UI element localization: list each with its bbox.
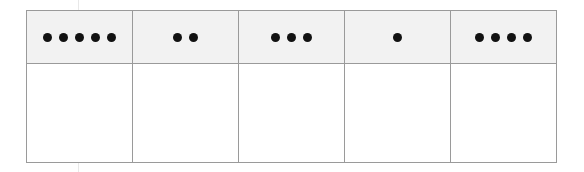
dot-mark-icon [303, 33, 312, 42]
dot-group-2 [133, 11, 238, 63]
dot-mark-icon [523, 33, 532, 42]
dot-mark-icon [189, 33, 198, 42]
answer-cell-5[interactable] [451, 64, 557, 163]
dot-count-table [26, 10, 557, 163]
dot-groups-row [27, 11, 557, 64]
answer-cell-2[interactable] [133, 64, 239, 163]
dot-cell-5[interactable] [451, 11, 557, 64]
dot-mark-icon [173, 33, 182, 42]
dot-count-worksheet [26, 10, 557, 160]
dot-mark-icon [393, 33, 402, 42]
dot-group-4 [345, 11, 450, 63]
dot-cell-1[interactable] [27, 11, 133, 64]
answer-cell-4[interactable] [345, 64, 451, 163]
dot-mark-icon [271, 33, 280, 42]
dot-mark-icon [59, 33, 68, 42]
answer-row [27, 64, 557, 163]
dot-group-5 [451, 11, 556, 63]
dot-cell-2[interactable] [133, 11, 239, 64]
dot-mark-icon [507, 33, 516, 42]
dot-group-3 [239, 11, 344, 63]
dot-mark-icon [91, 33, 100, 42]
dot-mark-icon [75, 33, 84, 42]
answer-cell-3[interactable] [239, 64, 345, 163]
dot-mark-icon [107, 33, 116, 42]
answer-cell-1[interactable] [27, 64, 133, 163]
dot-mark-icon [287, 33, 296, 42]
dot-mark-icon [43, 33, 52, 42]
dot-mark-icon [475, 33, 484, 42]
dot-mark-icon [491, 33, 500, 42]
dot-group-1 [27, 11, 132, 63]
dot-cell-4[interactable] [345, 11, 451, 64]
dot-cell-3[interactable] [239, 11, 345, 64]
